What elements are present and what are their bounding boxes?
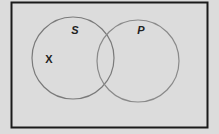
- set-s-label: S: [71, 24, 79, 36]
- venn-diagram: S P X: [0, 0, 219, 134]
- set-p-label: P: [137, 24, 145, 36]
- x-mark: X: [45, 53, 53, 65]
- universe-frame: [12, 3, 208, 128]
